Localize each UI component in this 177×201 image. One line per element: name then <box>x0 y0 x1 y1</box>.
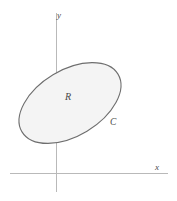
x-axis-label: x <box>155 163 159 172</box>
region-ellipse-curve-c <box>5 46 135 160</box>
y-axis-label: y <box>57 11 61 20</box>
region-label-r: R <box>65 92 71 102</box>
curve-label-c: C <box>110 118 116 128</box>
figure-svg <box>0 0 177 201</box>
figure-canvas: x y R C <box>0 0 177 201</box>
